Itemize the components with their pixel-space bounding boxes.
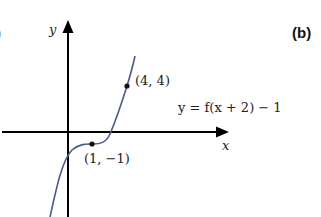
graph-figure: ) (b) x y (4, 4) (1, −1) y = f(x + 2) − … (0, 0, 321, 217)
point-1-neg1-label: (1, −1) (84, 151, 130, 166)
function-curve (50, 56, 135, 217)
prev-panel-label-fragment: ) (0, 24, 1, 41)
point-4-4-marker (124, 83, 129, 88)
x-axis (2, 127, 229, 138)
x-axis-arrow-icon (216, 127, 229, 138)
point-4-4-label: (4, 4) (135, 73, 170, 88)
x-axis-label: x (222, 138, 230, 153)
point-1-neg1-marker (89, 141, 94, 146)
panel-label: (b) (292, 24, 311, 41)
y-axis-label: y (48, 22, 57, 37)
y-axis-arrow-icon (63, 20, 74, 33)
curve-equation: y = f(x + 2) − 1 (177, 100, 282, 115)
y-axis (63, 20, 74, 217)
